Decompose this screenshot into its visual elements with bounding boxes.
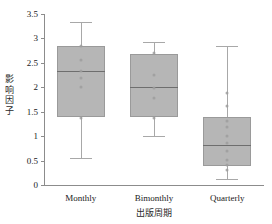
data-point [226,158,229,161]
data-point [226,169,229,172]
data-point [79,86,82,89]
y-tick-label: 0.5 [16,156,38,166]
y-tick-mark [41,185,44,186]
data-point [153,97,156,100]
data-point [79,116,82,119]
y-axis-line [44,14,45,186]
y-tick-mark [41,38,44,39]
data-point [153,52,156,55]
data-point [79,44,82,47]
x-tick-label: Quarterly [210,193,244,203]
data-point [226,142,229,145]
data-point [79,77,82,80]
data-point [153,74,156,77]
x-axis-label: 出版周期 [136,206,172,219]
y-tick-label: 1 [16,131,38,141]
boxplot-chart: 影响因子 00.511.522.533.5 MonthlyBimonthlyQu… [0,0,272,224]
y-tick-label: 3.5 [16,9,38,19]
y-tick-label: 0 [16,180,38,190]
data-point [226,104,229,107]
box [130,54,178,117]
whisker-cap-upper [216,46,238,47]
y-tick-label: 1.5 [16,107,38,117]
box [57,46,105,117]
data-point [79,59,82,62]
whisker-cap-lower [143,136,165,137]
y-tick-label: 3 [16,33,38,43]
median-line [203,145,251,146]
y-tick-label: 2.5 [16,58,38,68]
x-axis-line [44,185,264,186]
data-point [153,116,156,119]
data-point [79,70,82,73]
y-tick-mark [41,14,44,15]
data-point [226,135,229,138]
y-tick-mark [41,63,44,64]
whisker-cap-upper [70,22,92,23]
data-point [226,119,229,122]
y-tick-label: 2 [16,82,38,92]
x-tick-label: Bimonthly [135,193,174,203]
y-tick-mark [41,112,44,113]
x-tick-label: Monthly [65,193,96,203]
y-tick-mark [41,161,44,162]
data-point [226,149,229,152]
whisker-cap-lower [70,158,92,159]
y-axis-tick-labels: 00.511.522.533.5 [14,0,38,224]
y-tick-mark [41,136,44,137]
plot-area [44,14,264,186]
y-tick-mark [41,87,44,88]
whisker-cap-upper [143,42,165,43]
data-point [226,92,229,95]
data-point [153,87,156,90]
data-point [226,164,229,167]
data-point [226,126,229,129]
whisker-cap-lower [216,179,238,180]
